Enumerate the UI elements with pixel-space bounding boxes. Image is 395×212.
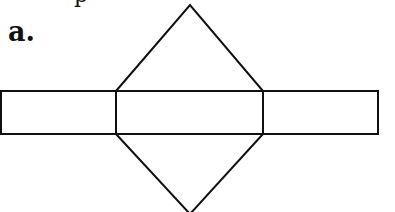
top-triangle	[116, 5, 263, 91]
middle-rectangle	[116, 91, 263, 134]
left-rectangle	[1, 91, 116, 134]
bottom-triangle	[116, 134, 263, 212]
right-rectangle	[263, 91, 378, 134]
net-diagram	[0, 0, 395, 212]
